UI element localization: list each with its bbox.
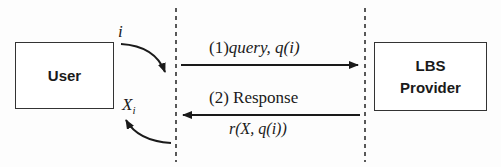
output-var: X: [122, 95, 132, 114]
output-curve-arrow: [126, 120, 171, 143]
provider-label-line1: LBS: [416, 55, 446, 77]
user-box: User: [15, 42, 114, 109]
provider-label-line2: Provider: [400, 77, 461, 99]
response-label: (2) Response: [209, 88, 298, 108]
output-var-subscript: i: [132, 104, 135, 116]
response-expression: r(X, q(i)): [229, 120, 287, 138]
output-var-label: Xi: [122, 95, 135, 116]
query-label: (1)query, q(i): [209, 38, 300, 58]
query-text: query, q(i): [229, 38, 300, 57]
lbs-query-diagram: User LBS Provider i Xi (1)query, q(i) (2…: [0, 0, 501, 167]
input-curve-arrow: [121, 44, 165, 72]
query-step-number: (1): [209, 38, 229, 57]
user-label: User: [48, 65, 81, 87]
input-var-label: i: [118, 22, 123, 42]
lbs-provider-box: LBS Provider: [374, 42, 487, 111]
